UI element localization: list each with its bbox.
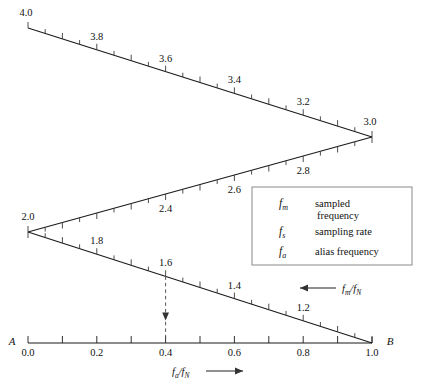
segment-value-label: 2.6: [228, 184, 241, 195]
legend-entry: fmsampledfrequency: [279, 197, 360, 221]
segment-value-label: 1.8: [90, 235, 103, 246]
segment-value-label: 1.4: [228, 280, 242, 291]
segment-value-label: 1.2: [297, 302, 310, 313]
x-axis-tick-label: 0.8: [297, 347, 310, 358]
legend-text: alias frequency: [315, 246, 380, 257]
legend-symbol: fa: [279, 245, 286, 260]
x-axis-tick-label: 1.0: [365, 347, 378, 358]
diagram-canvas: 0.00.20.40.60.81.0ABfa/fNfm/fN fmsampled…: [0, 0, 446, 392]
segment-value-label: 3.6: [159, 53, 172, 64]
axis-endpoint-a-label: A: [8, 335, 16, 347]
fold-arrow-head: [300, 285, 308, 292]
annotation-labels: 4.03.83.63.43.23.02.42.62.82.01.81.61.41…: [19, 7, 376, 313]
segment-value-label: 4.0: [19, 7, 32, 18]
legend-text: sampling rate: [315, 226, 372, 237]
legend-text: sampled: [315, 198, 351, 209]
segment-value-label: 2.0: [21, 211, 34, 222]
x-axis-tick-label: 0.0: [21, 347, 34, 358]
legend: fmsampledfrequencyfssampling ratefaalias…: [252, 187, 412, 265]
fold-label: fm/fN: [342, 283, 362, 297]
segment-value-label: 3.0: [363, 116, 376, 127]
segment-value-label: 3.4: [228, 74, 242, 85]
alias-arrow-head: [162, 312, 169, 320]
x-axis-tick-label: 0.2: [90, 347, 103, 358]
segment-value-label: 1.6: [159, 257, 172, 268]
legend-symbol: fs: [279, 225, 285, 240]
segment-2-to-1: [28, 226, 372, 343]
x-axis-title: fa/fN: [172, 366, 191, 380]
legend-text: frequency: [317, 210, 360, 221]
segment-value-label: 3.8: [90, 31, 103, 42]
x-axis-arrow-head: [235, 368, 243, 375]
legend-entry: faalias frequency: [279, 245, 380, 260]
alias-trace: [162, 276, 169, 342]
segment-value-label: 3.2: [297, 96, 310, 107]
x-axis-tick-label: 0.4: [159, 347, 173, 358]
segment-value-label: 2.4: [159, 203, 173, 214]
segment-4-to-3: [28, 22, 372, 137]
zigzag-segments: [28, 22, 372, 343]
segment-value-label: 2.8: [297, 165, 310, 176]
aliasing-fold-diagram: 0.00.20.40.60.81.0ABfa/fNfm/fN fmsampled…: [0, 0, 446, 392]
x-axis-tick-label: 0.6: [228, 347, 241, 358]
legend-symbol: fm: [279, 197, 288, 212]
axis-endpoint-b-label: B: [387, 335, 394, 347]
legend-entry: fssampling rate: [279, 225, 372, 240]
